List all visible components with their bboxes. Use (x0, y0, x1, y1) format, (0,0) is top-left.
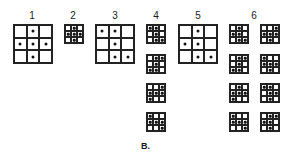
grid-cell (159, 37, 165, 43)
dot-icon (269, 127, 272, 130)
dot-icon (269, 86, 272, 89)
dot-icon (232, 98, 235, 101)
grid-cell (14, 38, 27, 51)
dot-icon (31, 42, 34, 45)
grid-cell (27, 25, 40, 38)
grid-cell (192, 25, 205, 38)
grid-cell (204, 25, 217, 38)
dot-icon (155, 121, 158, 124)
dot-icon (275, 33, 278, 36)
dot-icon (263, 57, 266, 60)
dot-icon (161, 39, 164, 42)
dot-icon (19, 42, 22, 45)
group-label-4: 4 (146, 10, 166, 21)
grid-cell (14, 25, 27, 38)
grid-cell (109, 25, 122, 38)
grid-cell (109, 50, 122, 63)
dot-grid-group-4 (146, 83, 166, 103)
dot-icon (149, 69, 152, 72)
dot-icon (238, 69, 241, 72)
dot-icon (269, 33, 272, 36)
dot-icon (209, 55, 212, 58)
dot-icon (113, 55, 116, 58)
dot-icon (196, 55, 199, 58)
dot-icon (155, 33, 158, 36)
dot-icon (275, 115, 278, 118)
dot-grid-group-2 (64, 24, 84, 44)
dot-icon (67, 33, 70, 36)
dot-icon (269, 92, 272, 95)
dot-icon (238, 121, 241, 124)
dot-icon (269, 69, 272, 72)
dot-icon (196, 30, 199, 33)
dot-icon (155, 69, 158, 72)
dot-icon (73, 39, 76, 42)
grid-cell (273, 96, 279, 102)
dot-icon (161, 92, 164, 95)
grid-cell (77, 37, 83, 43)
dot-icon (44, 42, 47, 45)
dot-icon (155, 92, 158, 95)
grid-cell (204, 50, 217, 63)
dot-icon (263, 33, 266, 36)
grid-cell (27, 50, 40, 63)
dot-icon (244, 127, 247, 130)
group-label-5: 5 (188, 10, 208, 21)
dot-icon (161, 86, 164, 89)
dot-icon (101, 30, 104, 33)
dot-icon (31, 55, 34, 58)
grid-cell (192, 38, 205, 51)
dot-icon (244, 92, 247, 95)
grid-cell (121, 25, 134, 38)
dot-icon (73, 27, 76, 30)
group-label-3: 3 (105, 10, 125, 21)
dot-icon (161, 121, 164, 124)
dot-grid-group-6 (260, 112, 280, 132)
dot-icon (79, 33, 82, 36)
grid-cell (204, 38, 217, 51)
grid-cell (121, 38, 134, 51)
dot-icon (149, 92, 152, 95)
group-label-6: 6 (244, 10, 264, 21)
grid-cell (159, 125, 165, 131)
dot-grid-group-3 (95, 24, 135, 64)
dot-icon (155, 63, 158, 66)
dot-icon (149, 98, 152, 101)
dot-icon (238, 33, 241, 36)
dot-icon (238, 39, 241, 42)
dot-icon (155, 27, 158, 30)
dot-grid-group-5 (178, 24, 218, 64)
dot-grid-group-6 (260, 24, 280, 44)
dot-icon (73, 33, 76, 36)
dot-icon (269, 115, 272, 118)
dot-icon (126, 55, 129, 58)
grid-cell (273, 125, 279, 131)
dot-icon (149, 115, 152, 118)
dot-grid-group-6 (229, 83, 249, 103)
grid-cell (159, 67, 165, 73)
group-label-2: 2 (63, 10, 83, 21)
dot-grid-group-6 (260, 54, 280, 74)
dot-icon (232, 121, 235, 124)
dot-icon (196, 42, 199, 45)
dot-icon (155, 57, 158, 60)
grid-cell (179, 38, 192, 51)
grid-cell (242, 125, 248, 131)
dot-icon (161, 127, 164, 130)
grid-cell (159, 96, 165, 102)
grid-cell (273, 67, 279, 73)
grid-cell (273, 37, 279, 43)
dot-icon (238, 92, 241, 95)
dot-icon (269, 63, 272, 66)
dot-icon (244, 39, 247, 42)
grid-cell (242, 96, 248, 102)
dot-icon (232, 69, 235, 72)
dot-grid-group-6 (229, 54, 249, 74)
dot-grid-group-6 (260, 83, 280, 103)
grid-cell (96, 50, 109, 63)
group-label-1: 1 (22, 10, 42, 21)
dot-icon (238, 86, 241, 89)
dot-icon (238, 63, 241, 66)
grid-cell (179, 50, 192, 63)
dot-icon (263, 121, 266, 124)
